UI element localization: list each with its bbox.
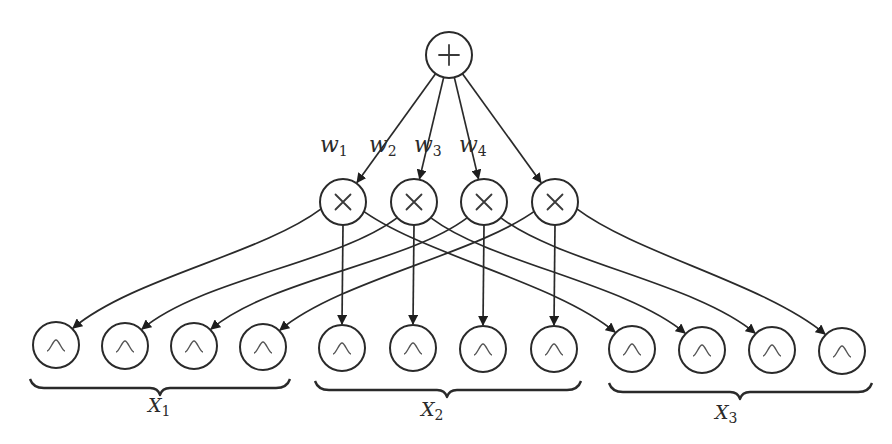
leaf-x2-4 (531, 326, 577, 372)
leaf-x3-1 (609, 326, 655, 372)
variable-label-x1: X1 (146, 394, 170, 419)
product-node-4 (532, 179, 578, 225)
edge-product-2-to-x2-leaf-2 (413, 225, 414, 324)
spn-diagram: w1w2w3w4X1X2X3 (0, 0, 892, 444)
product-node-1 (320, 179, 366, 225)
edges-layer (73, 74, 825, 334)
product-node-3 (461, 179, 507, 225)
leaf-x1-2 (102, 323, 148, 369)
weight-label-w4: w4 (459, 132, 487, 159)
edge-product-4-to-x2-leaf-4 (554, 225, 555, 325)
brace-x3 (609, 383, 872, 399)
edge-product-1-to-x2-leaf-1 (342, 225, 343, 324)
weight-label-w1: w1 (320, 132, 348, 159)
edge-sum-to-product-3 (454, 77, 478, 178)
edge-product-1-to-x1-leaf-1 (73, 209, 321, 328)
leaf-x1-1 (33, 322, 79, 368)
edge-sum-to-product-2 (420, 77, 444, 178)
leaf-x3-2 (679, 327, 725, 373)
leaf-x1-4 (240, 324, 286, 370)
labels-layer: w1w2w3w4X1X2X3 (30, 132, 872, 426)
leaf-x2-1 (319, 325, 365, 371)
edge-product-4-to-x3-leaf-4 (577, 209, 825, 334)
leaf-x2-2 (390, 325, 436, 371)
leaf-x2-3 (460, 326, 506, 372)
edge-product-3-to-x1-leaf-3 (211, 218, 467, 329)
brace-x2 (315, 381, 581, 397)
leaf-x1-3 (171, 323, 217, 369)
edge-product-1-to-x3-leaf-1 (360, 209, 615, 332)
edge-sum-to-product-1 (357, 74, 436, 183)
edge-product-4-to-x1-leaf-4 (280, 209, 538, 330)
variable-label-x3: X3 (713, 401, 737, 426)
brace-x1 (30, 379, 290, 395)
leaf-x3-4 (819, 328, 865, 374)
product-node-2 (391, 179, 437, 225)
edge-sum-to-product-4 (462, 74, 541, 183)
edge-product-3-to-x2-leaf-3 (483, 225, 484, 325)
variable-label-x2: X2 (419, 398, 443, 423)
weight-label-w3: w3 (414, 132, 442, 159)
sum-node (426, 32, 472, 78)
weight-label-w2: w2 (369, 132, 397, 159)
edge-product-2-to-x3-leaf-2 (431, 218, 685, 333)
leaf-x3-3 (749, 327, 795, 373)
